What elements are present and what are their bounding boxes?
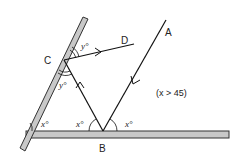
angle-x-B-left: x° bbox=[75, 119, 84, 129]
angle-arc bbox=[110, 119, 117, 131]
label-C: C bbox=[44, 55, 51, 66]
condition-text: (x > 45) bbox=[156, 88, 187, 98]
reflection-diagram: A D C B y° y° x° x° x° (x > 45) bbox=[0, 0, 243, 156]
label-B: B bbox=[99, 143, 106, 154]
label-D: D bbox=[121, 35, 128, 46]
angle-x-left: x° bbox=[40, 119, 49, 129]
angle-y-top: y° bbox=[80, 41, 89, 51]
angle-y-bottom: y° bbox=[58, 80, 67, 90]
bottom-mirror bbox=[26, 131, 229, 138]
arrow-icon bbox=[131, 76, 140, 84]
angle-arc bbox=[89, 119, 96, 131]
angle-x-B-right: x° bbox=[124, 119, 133, 129]
ray-A-B bbox=[103, 20, 166, 131]
label-A: A bbox=[165, 27, 172, 38]
